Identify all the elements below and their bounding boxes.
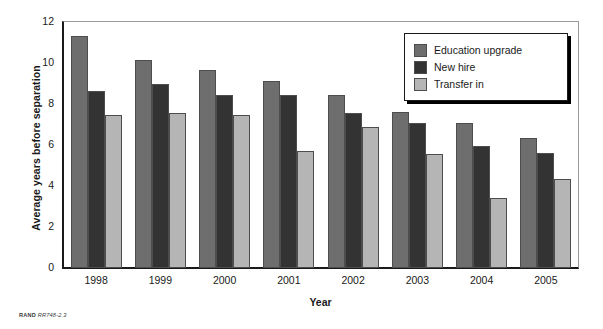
bar [473,146,490,268]
bar [88,91,105,268]
chart-figure: Average years before separation 02468101… [0,0,603,329]
bar [456,123,473,268]
bar [105,115,122,268]
footnote-source: RAND [19,312,36,318]
bar [392,112,409,268]
y-tick-label: 12 [24,15,54,27]
y-axis-title: Average years before separation [30,28,42,268]
legend-item: Transfer in [414,76,559,92]
legend-swatch [414,78,427,91]
x-tick-label: 2000 [195,274,255,286]
x-axis-title: Year [62,296,579,308]
footnote-code: RR748-2.3 [38,312,67,318]
bar [490,198,507,268]
bar-group [71,22,122,268]
x-tick-label: 1999 [130,274,190,286]
bar-group [328,22,379,268]
bar [71,36,88,268]
bar [169,113,186,268]
x-tick-label: 2004 [452,274,512,286]
legend-swatch [414,44,427,57]
x-tick-label: 2003 [387,274,447,286]
bar-group [263,22,314,268]
bar [233,115,250,268]
bar-group [135,22,186,268]
x-tick-label: 2001 [259,274,319,286]
bar [345,113,362,268]
legend: Education upgradeNew hireTransfer in [404,33,568,101]
bar [263,81,280,268]
x-tick-label: 2002 [323,274,383,286]
bar [362,127,379,268]
legend-label: Transfer in [434,78,484,90]
bar [426,154,443,268]
bar [280,95,297,268]
bar [409,123,426,268]
legend-item: New hire [414,59,559,75]
bar [152,84,169,269]
legend-swatch [414,61,427,74]
legend-item: Education upgrade [414,42,559,58]
bar [554,179,571,268]
bar [328,95,345,268]
bar [297,151,314,268]
x-tick-label: 2005 [516,274,576,286]
bar [199,70,216,268]
legend-label: Education upgrade [434,44,522,56]
bar-group [199,22,250,268]
legend-label: New hire [434,61,475,73]
x-tick-label: 1998 [66,274,126,286]
bar [135,60,152,268]
bar [216,95,233,268]
bar [537,153,554,268]
footnote: RAND RR748-2.3 [19,312,67,318]
bar [520,138,537,268]
